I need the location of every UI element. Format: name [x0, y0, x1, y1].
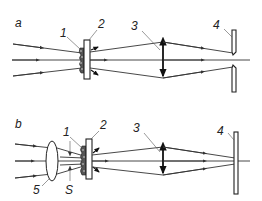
- optical-diagram: a: [0, 0, 262, 201]
- callout-2b: 2: [99, 118, 107, 132]
- callout-4b: 4: [217, 124, 224, 138]
- lens-5: [46, 141, 58, 181]
- incoming-rays: [12, 44, 84, 76]
- plate-2b: [86, 139, 92, 179]
- callout-5: 5: [33, 183, 40, 197]
- screen-4b: [234, 132, 238, 194]
- panel-label-a: a: [15, 16, 22, 30]
- panel-label-b: b: [15, 117, 22, 131]
- callout-1: 1: [60, 26, 67, 40]
- callout-2: 2: [97, 17, 105, 31]
- callout-3b: 3: [133, 121, 140, 135]
- panel-b: b: [15, 117, 250, 197]
- plate-2: [84, 40, 90, 79]
- sample-layer-1b: [81, 146, 87, 175]
- screen-4: [232, 30, 236, 92]
- callout-s: S: [65, 183, 73, 197]
- callout-1b: 1: [63, 125, 70, 139]
- sample-layer-1: [79, 48, 84, 73]
- callout-4: 4: [213, 18, 220, 32]
- callout-3: 3: [131, 19, 138, 33]
- panel-a: a: [12, 16, 250, 92]
